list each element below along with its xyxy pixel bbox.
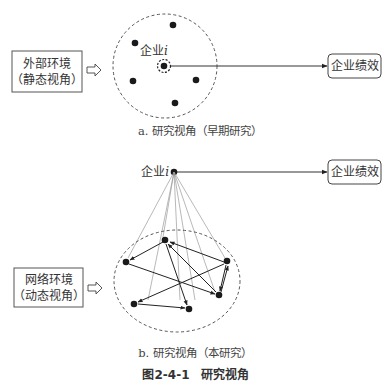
environment-label-line1: 外部环境	[23, 56, 71, 71]
svg-text:企业绩效: 企业绩效	[331, 58, 379, 73]
network-node	[123, 259, 130, 266]
peer-node	[172, 100, 179, 107]
caption-a: a. 研究视角（早期研究）	[138, 124, 262, 138]
panel-a: 外部环境 （静态视角） 企业i 企业绩效 a. 研究视角（早期研究）	[11, 14, 381, 138]
svg-text:企业绩效: 企业绩效	[331, 164, 379, 179]
peer-node	[170, 22, 177, 29]
focal-firm-b: 企业i	[141, 164, 177, 179]
network-label-line2: （动态视角）	[13, 288, 85, 303]
focal-firm-a: 企业i	[140, 43, 170, 73]
figure-title: 图2-4-1 研究视角	[142, 367, 249, 382]
network-node	[131, 301, 138, 308]
hollow-arrow-icon	[87, 64, 101, 76]
external-environment-box: 外部环境 （静态视角）	[11, 51, 83, 92]
firm-label-b: 企业i	[141, 164, 169, 179]
environment-label-line2: （静态视角）	[11, 72, 83, 87]
peer-node	[130, 78, 137, 85]
network-node	[216, 292, 223, 299]
panel-b: 企业i 企业绩效	[13, 160, 382, 360]
network-environment-box: 网络环境 （动态视角）	[13, 268, 85, 307]
firm-label-a: 企业i	[140, 43, 168, 58]
firm-performance-box-a: 企业绩效	[328, 54, 381, 78]
network-node	[186, 306, 193, 313]
network-node	[162, 237, 169, 244]
research-perspective-diagram: 外部环境 （静态视角） 企业i 企业绩效 a. 研究视角（早期研究）	[0, 0, 392, 386]
firm-performance-box-b: 企业绩效	[328, 160, 381, 184]
hollow-arrow-icon	[88, 282, 102, 294]
caption-b: b. 研究视角（本研究）	[138, 346, 252, 360]
network-node	[224, 258, 231, 265]
peer-node	[132, 40, 139, 47]
peer-node	[193, 77, 200, 84]
network-label-line1: 网络环境	[25, 272, 73, 287]
